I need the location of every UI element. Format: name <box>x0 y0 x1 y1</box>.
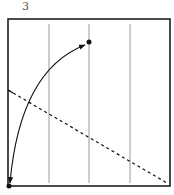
point-origin <box>7 184 12 189</box>
diagram-canvas <box>0 0 174 195</box>
point-target <box>87 40 92 45</box>
arc-arrow <box>10 45 85 183</box>
dashed-line <box>8 90 167 183</box>
gridlines <box>49 24 130 183</box>
